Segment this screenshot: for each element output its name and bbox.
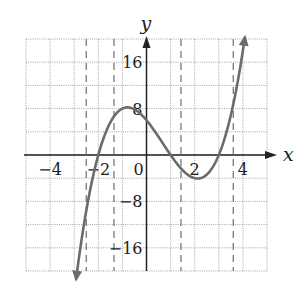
function-curve xyxy=(76,38,245,279)
y-tick-label: −8 xyxy=(119,192,143,211)
y-axis-label: y xyxy=(140,12,152,34)
curve xyxy=(72,35,248,282)
y-axis-arrow-icon xyxy=(143,36,151,48)
y-tick-label: 16 xyxy=(122,53,142,72)
curve-arrow-up-icon xyxy=(239,35,249,47)
x-tick-label: 0 xyxy=(133,160,143,179)
axes: x y xyxy=(24,12,294,271)
x-axis-label: x xyxy=(283,143,294,165)
curve-arrow-down-icon xyxy=(72,270,82,282)
y-tick-label: −16 xyxy=(109,239,143,258)
x-tick-label: −2 xyxy=(87,160,111,179)
x-tick-label: 4 xyxy=(238,160,248,179)
x-tick-label: −4 xyxy=(38,160,62,179)
x-axis-arrow-icon xyxy=(265,151,277,159)
function-graph: x y −4−2024168−8−16 xyxy=(0,0,305,292)
